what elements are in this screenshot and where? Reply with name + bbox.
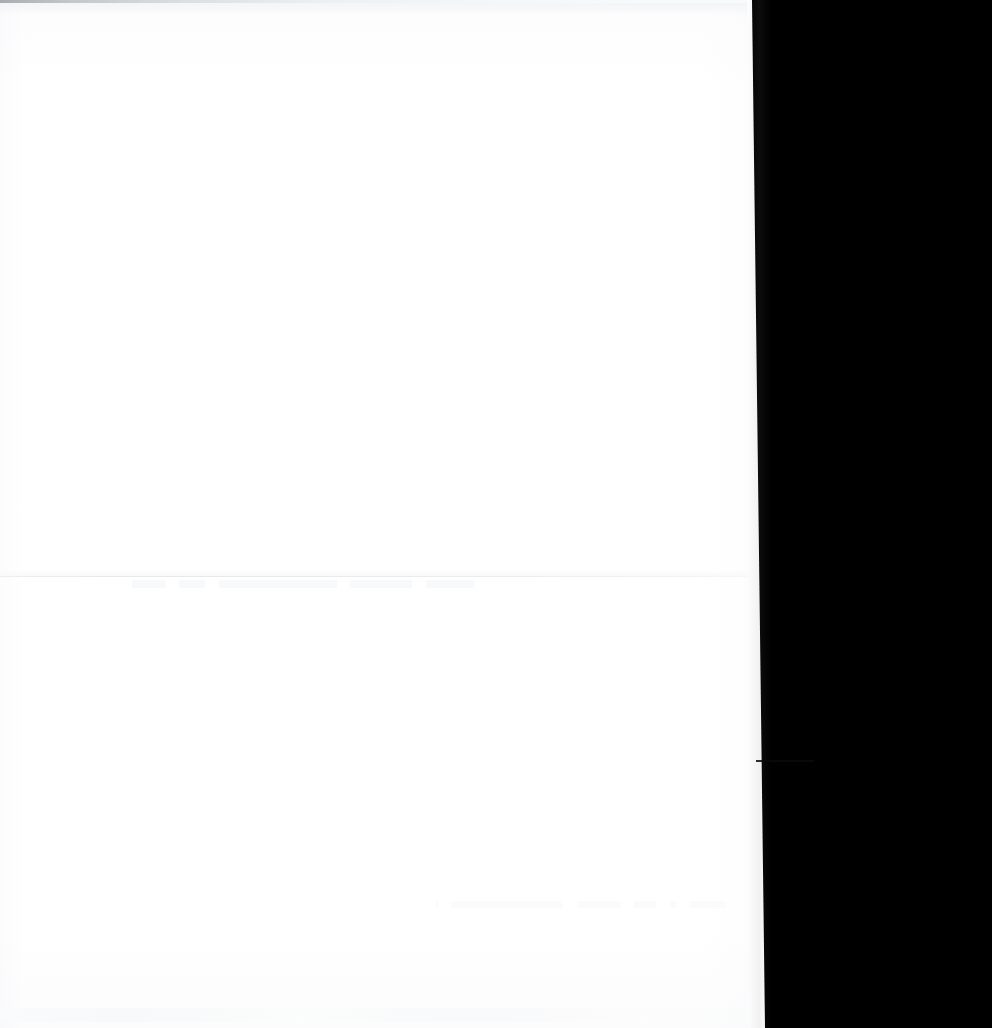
ghost-token: [634, 901, 656, 908]
ghost-text-line-lower: [436, 901, 766, 910]
black-band-dark-streak: [756, 760, 814, 762]
document-page-surface: [0, 0, 770, 1028]
page-top-edge-shading: [0, 3, 770, 15]
ghost-token: [451, 901, 563, 908]
ghost-token: [219, 580, 337, 588]
screenshot-canvas: [0, 0, 992, 1028]
ghost-token: [179, 580, 205, 588]
ghost-token: [350, 580, 412, 588]
ghost-token: [132, 580, 166, 588]
ghost-token: [689, 901, 725, 908]
ghost-token: [436, 901, 438, 908]
right-black-band: [747, 0, 992, 1028]
ghost-token: [426, 580, 474, 588]
ghost-token: [577, 901, 621, 908]
ghost-text-line-upper: [132, 580, 552, 589]
page-bottom-smudge: [0, 1008, 755, 1022]
section-divider: [0, 576, 755, 577]
ghost-token: [670, 901, 676, 908]
